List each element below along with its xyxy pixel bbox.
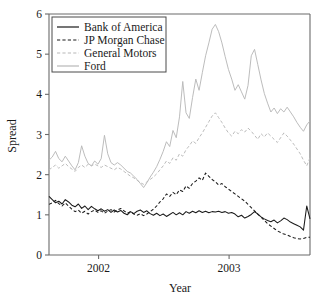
y-axis-title: Spread xyxy=(5,119,19,152)
y-tick-label: 1 xyxy=(36,209,42,221)
chart-figure: 0123456 20022003 Bank of AmericaJP Morga… xyxy=(0,0,323,300)
x-tick-label: 2002 xyxy=(87,262,110,274)
legend-label: JP Morgan Chase xyxy=(84,34,165,47)
y-tick-label: 4 xyxy=(36,88,42,100)
legend-label: Ford xyxy=(84,60,106,72)
y-tick-label: 6 xyxy=(36,8,42,20)
x-axis-title: Year xyxy=(169,281,191,295)
y-tick-label: 0 xyxy=(36,249,42,261)
series-line-jp-morgan-chase xyxy=(49,173,310,239)
series-line-bank-of-america xyxy=(49,196,310,230)
x-tick-label: 2003 xyxy=(218,262,241,274)
series-line-general-motors xyxy=(49,113,310,185)
y-axis: 0123456 xyxy=(36,8,49,261)
legend-label: Bank of America xyxy=(84,21,163,33)
line-chart: 0123456 20022003 Bank of AmericaJP Morga… xyxy=(0,0,323,300)
chart-legend: Bank of AmericaJP Morgan ChaseGeneral Mo… xyxy=(52,17,166,72)
legend-label: General Motors xyxy=(84,47,157,59)
y-tick-label: 5 xyxy=(36,48,42,60)
y-tick-label: 2 xyxy=(36,169,42,181)
y-tick-label: 3 xyxy=(36,129,42,141)
